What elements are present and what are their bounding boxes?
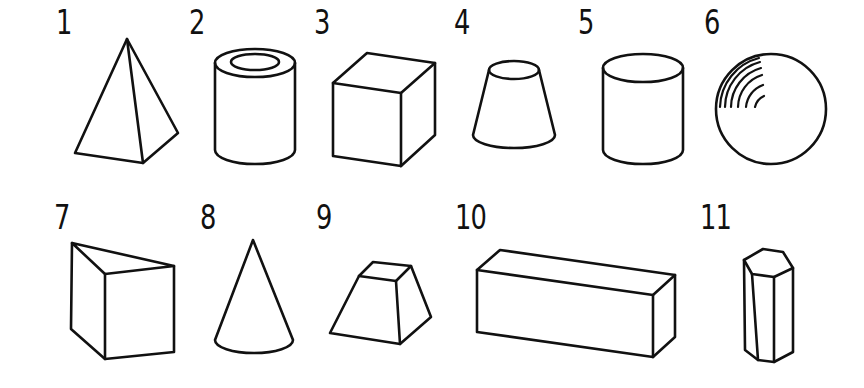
truncated-pyramid-icon (330, 262, 431, 344)
hollow-cylinder-icon (215, 49, 295, 164)
cylinder-icon (603, 54, 683, 164)
hexagonal-prism-icon (744, 249, 793, 362)
rectangular-prism-icon (477, 250, 675, 357)
shapes-drawing (0, 0, 864, 388)
triangular-prism-icon (71, 243, 174, 359)
cone-icon (215, 240, 293, 353)
truncated-cone-icon (473, 61, 555, 148)
solids-diagram: 1 2 3 4 5 6 7 8 9 10 11 (0, 0, 864, 388)
cube-icon (333, 53, 435, 166)
square-pyramid-icon (75, 39, 178, 163)
sphere-icon (716, 54, 826, 164)
